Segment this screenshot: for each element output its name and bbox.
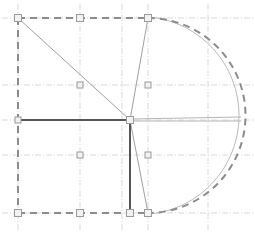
- node-corner-bottom-left[interactable]: [15, 210, 22, 217]
- offset-arc-light: [150, 17, 239, 214]
- node-top-mid[interactable]: [77, 15, 84, 22]
- cad-drawing-surface[interactable]: [0, 0, 255, 238]
- outline-right-arc[interactable]: [148, 18, 245, 213]
- radius-hub-to-arc-upper: [130, 117, 241, 119]
- offset-arc-layer: [150, 17, 239, 214]
- node-grid-right-lower[interactable]: [145, 152, 151, 158]
- node-grid-left-upper[interactable]: [77, 82, 83, 88]
- node-wall-left-end[interactable]: [15, 117, 21, 123]
- node-grid-right-upper[interactable]: [145, 82, 151, 88]
- node-corner-bottom-right[interactable]: [145, 210, 152, 217]
- drawing-canvas[interactable]: [0, 0, 255, 238]
- node-bottom-mid[interactable]: [77, 210, 84, 217]
- node-grid-left-lower[interactable]: [77, 152, 83, 158]
- node-wall-bottom-end[interactable]: [127, 210, 134, 217]
- diagonal-hub-to-bottomright: [130, 120, 148, 213]
- diagonal-topleft-to-hub: [18, 18, 130, 120]
- diagonal-topright-to-hub: [130, 18, 148, 120]
- node-hub-center[interactable]: [127, 117, 134, 124]
- structural-walls-layer[interactable]: [18, 120, 130, 213]
- node-top-right[interactable]: [145, 15, 152, 22]
- node-corner-top-left[interactable]: [15, 15, 22, 22]
